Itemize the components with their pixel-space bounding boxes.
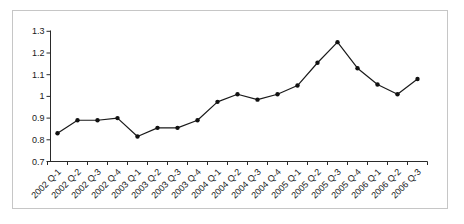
chart-canvas: 0.70.80.911.11.21.32002 Q-12002 Q-22002 … xyxy=(0,0,464,224)
data-point xyxy=(275,92,279,96)
y-tick-label: 0.7 xyxy=(32,157,45,167)
data-point xyxy=(175,126,179,130)
data-point xyxy=(215,100,219,104)
line-chart: 0.70.80.911.11.21.32002 Q-12002 Q-22002 … xyxy=(0,0,464,224)
y-tick-label: 1.2 xyxy=(32,48,45,58)
y-tick-label: 1.3 xyxy=(32,26,45,36)
data-point xyxy=(155,126,159,130)
data-point xyxy=(295,83,299,87)
data-point xyxy=(55,131,59,135)
data-point xyxy=(235,92,239,96)
data-point xyxy=(395,92,399,96)
data-point xyxy=(255,97,259,101)
y-tick-label: 0.9 xyxy=(32,113,45,123)
data-point xyxy=(335,40,339,44)
data-point xyxy=(75,118,79,122)
data-point xyxy=(135,134,139,138)
y-tick-label: 1.1 xyxy=(32,70,45,80)
data-point xyxy=(195,118,199,122)
data-point xyxy=(415,77,419,81)
data-point xyxy=(115,116,119,120)
data-point xyxy=(95,118,99,122)
data-point xyxy=(315,61,319,65)
y-tick-label: 1 xyxy=(39,91,44,101)
data-point xyxy=(355,66,359,70)
y-tick-label: 0.8 xyxy=(32,135,45,145)
data-point xyxy=(375,82,379,86)
